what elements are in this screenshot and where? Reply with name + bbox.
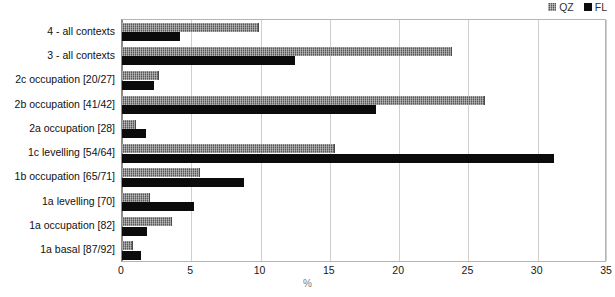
y-axis-label: 1a occupation [82] [0, 220, 115, 231]
x-tick-label-30: 30 [531, 264, 543, 276]
y-axis-label: 4 - all contexts [0, 26, 115, 37]
bar-fl [122, 81, 154, 90]
x-tick-label-10: 10 [254, 264, 266, 276]
bar-qz [122, 241, 133, 250]
legend-entry-fl: FL [584, 2, 607, 13]
y-axis-label: 1b occupation [65/71] [0, 171, 115, 182]
legend-swatch-fl-icon [584, 3, 592, 11]
bar-fl [122, 32, 180, 41]
x-tick-label-35: 35 [600, 264, 612, 276]
x-tick-label-25: 25 [462, 264, 474, 276]
gridline-35 [606, 20, 607, 261]
x-axis-title: % [0, 278, 615, 289]
x-tick-label-20: 20 [392, 264, 404, 276]
y-axis-label: 2c occupation [20/27] [0, 74, 115, 85]
bar-qz [122, 23, 259, 32]
bar-qz [122, 168, 200, 177]
bar-fl [122, 129, 146, 138]
bar-fl [122, 227, 147, 236]
y-axis-label: 1a basal [87/92] [0, 244, 115, 255]
bar-fl [122, 251, 141, 260]
y-axis-category-labels: 4 - all contexts3 - all contexts2c occup… [0, 19, 115, 262]
bar-fl [122, 178, 244, 187]
bar-qz [122, 120, 136, 129]
y-axis-label: 1a levelling [70] [0, 196, 115, 207]
legend-swatch-qz-icon [548, 3, 556, 11]
bar-chart: QZ FL 4 - all contexts3 - all contexts2c… [0, 0, 615, 297]
bar-qz [122, 71, 159, 80]
plot-area [121, 19, 606, 262]
bar-qz [122, 47, 452, 56]
bar-qz [122, 144, 335, 153]
y-axis-label: 1c levelling [54/64] [0, 147, 115, 158]
bar-qz [122, 217, 172, 226]
bar-qz [122, 193, 150, 202]
bar-fl [122, 105, 376, 114]
chart-legend: QZ FL [548, 2, 607, 13]
y-axis-label: 2b occupation [41/42] [0, 99, 115, 110]
legend-entry-qz: QZ [548, 2, 574, 13]
x-tick-label-15: 15 [323, 264, 335, 276]
y-axis-label: 2a occupation [28] [0, 123, 115, 134]
legend-label-fl: FL [595, 2, 607, 13]
y-axis-label: 3 - all contexts [0, 50, 115, 61]
legend-label-qz: QZ [559, 2, 574, 13]
bar-series-group [122, 20, 605, 261]
x-tick-label-5: 5 [187, 264, 193, 276]
bar-fl [122, 56, 295, 65]
bar-fl [122, 154, 554, 163]
bar-qz [122, 96, 485, 105]
x-tick-label-0: 0 [118, 264, 124, 276]
bar-fl [122, 202, 194, 211]
